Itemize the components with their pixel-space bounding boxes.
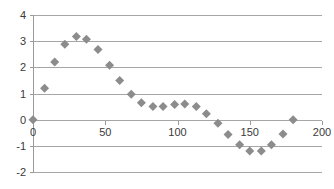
data-point-marker	[170, 100, 179, 109]
data-point-marker	[159, 102, 168, 111]
x-tick-label: 50	[99, 126, 111, 138]
data-point-marker	[267, 140, 276, 149]
y-axis-tick-labels: -2-101234	[16, 9, 26, 178]
data-point-marker	[127, 90, 136, 99]
x-tick-label: 200	[313, 126, 331, 138]
x-tick-label: 100	[168, 126, 186, 138]
data-point-marker	[278, 130, 287, 139]
chart-canvas: 050100150200 -2-101234	[0, 0, 334, 189]
y-tick-label: 2	[20, 61, 26, 73]
data-point-marker	[94, 45, 103, 54]
y-tick-label: -2	[16, 166, 26, 178]
y-tick-label: -1	[16, 140, 26, 152]
data-point-marker	[40, 84, 49, 93]
data-point-marker	[202, 109, 211, 118]
data-point-marker	[192, 102, 201, 111]
y-tick-label: 3	[20, 35, 26, 47]
data-point-marker	[115, 76, 124, 85]
data-point-marker	[235, 140, 244, 149]
x-axis-ticks	[34, 121, 323, 125]
y-tick-label: 1	[20, 88, 26, 100]
data-point-marker	[82, 35, 91, 44]
data-point-marker	[289, 115, 298, 124]
data-point-marker	[180, 99, 189, 108]
x-axis-tick-labels: 050100150200	[30, 126, 331, 138]
y-tick-label: 0	[20, 114, 26, 126]
y-axis-ticks	[30, 16, 33, 173]
data-point-marker	[105, 61, 114, 70]
data-point-marker	[245, 147, 254, 156]
scatter-chart: 050100150200 -2-101234	[0, 0, 334, 189]
data-point-marker	[72, 32, 81, 41]
data-point-marker	[29, 115, 38, 124]
data-point-marker	[148, 102, 157, 111]
data-point-marker	[137, 98, 146, 107]
data-point-marker	[50, 58, 59, 67]
x-tick-label: 0	[30, 126, 36, 138]
data-point-marker	[224, 130, 233, 139]
data-point-marker	[257, 147, 266, 156]
y-tick-label: 4	[20, 9, 26, 21]
x-tick-label: 150	[241, 126, 259, 138]
